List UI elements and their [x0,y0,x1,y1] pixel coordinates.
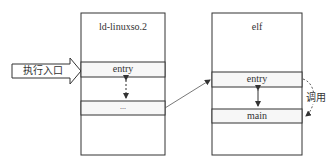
connector-arrow [165,80,210,108]
right-box-title: elf [212,21,302,33]
left-box-frame [81,13,165,155]
left-box-title: ld-linuxso.2 [81,21,165,33]
right-row-main-label: main [212,110,302,122]
left-row-entry-label: entry [81,63,165,75]
entry-arrow-label: 执行入口 [22,65,64,77]
call-annotation-label: 调用 [304,92,328,104]
right-row-entry-label: entry [212,73,302,85]
left-row-dots-label: ... [81,101,165,113]
